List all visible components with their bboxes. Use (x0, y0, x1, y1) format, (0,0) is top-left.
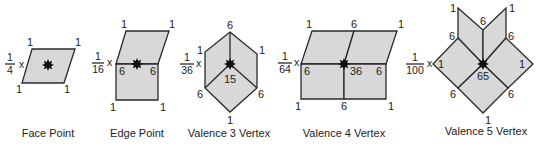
caption: Edge Point (110, 127, 164, 139)
mask-hexagon (205, 32, 257, 112)
times-sign: x (107, 56, 113, 68)
fraction-denominator: 64 (279, 63, 291, 75)
weight-label: 6 (258, 88, 264, 100)
times-sign: x (294, 56, 300, 68)
fraction-denominator: 100 (406, 64, 424, 76)
weight-label: 1 (227, 114, 233, 126)
panel-face-point: 1 4 x 1 1 1 1 Face Point (5, 36, 81, 139)
scale-fraction: 1 16 x (92, 50, 113, 75)
weight-label: 6 (508, 30, 514, 42)
weight-label: 6 (227, 19, 233, 31)
fraction-numerator: 1 (184, 51, 190, 63)
weight-label: 1 (169, 18, 175, 30)
weight-label: 6 (150, 65, 156, 77)
weight-label: 1 (295, 100, 301, 112)
panel-valence-5-vertex: 1 100 x 1 6 1 6 6 1 1 65 6 6 1 Valence 5… (406, 2, 533, 137)
weight-label: 1 (121, 18, 127, 30)
weight-label: 1 (438, 58, 444, 70)
panel-valence-4-vertex: 1 64 x 1 6 1 6 36 6 1 6 1 Valence 4 Vert… (278, 18, 404, 139)
weight-label: 1 (197, 44, 203, 56)
weight-label: 1 (519, 58, 525, 70)
weight-label: 1 (160, 101, 166, 113)
fraction-numerator: 1 (282, 50, 288, 62)
caption: Valence 4 Vertex (303, 127, 386, 139)
mask-face (116, 31, 169, 64)
fraction-numerator: 1 (95, 50, 101, 62)
weight-label: 6 (119, 65, 125, 77)
weight-label: 1 (509, 2, 515, 14)
scale-fraction: 1 100 x (406, 51, 433, 76)
fraction-denominator: 16 (92, 63, 104, 75)
scale-fraction: 1 4 x (5, 51, 25, 76)
subdivision-masks-figure: 1 4 x 1 1 1 1 Face Point 1 16 x 1 1 6 6 … (0, 0, 539, 147)
weight-label: 6 (449, 30, 455, 42)
panel-edge-point: 1 16 x 1 1 6 6 1 1 Edge Point (92, 18, 175, 139)
weight-label: 1 (306, 18, 312, 30)
times-sign: x (427, 57, 433, 69)
weight-label: 6 (376, 65, 382, 77)
weight-label: 36 (350, 65, 362, 77)
weight-label: 1 (75, 36, 81, 48)
weight-label: 1 (388, 100, 394, 112)
weight-label: 1 (16, 83, 22, 95)
caption: Face Point (22, 127, 75, 139)
mask-face (344, 31, 397, 64)
weight-label: 6 (480, 15, 486, 27)
weight-label: 1 (27, 36, 33, 48)
weight-label: 1 (110, 101, 116, 113)
weight-label: 1 (398, 18, 404, 30)
caption: Valence 3 Vertex (188, 127, 271, 139)
weight-label: 65 (477, 70, 489, 82)
fraction-numerator: 1 (7, 51, 13, 63)
fraction-denominator: 4 (7, 64, 13, 76)
weight-label: 15 (224, 73, 236, 85)
weight-label: 1 (450, 2, 456, 14)
weight-label: 6 (197, 88, 203, 100)
weight-label: 1 (259, 44, 265, 56)
weight-label: 6 (351, 18, 357, 30)
caption: Valence 5 Vertex (445, 125, 528, 137)
weight-label: 6 (508, 88, 514, 100)
weight-label: 6 (341, 100, 347, 112)
scale-fraction: 1 64 x (278, 50, 300, 75)
times-sign: x (19, 58, 25, 70)
fraction-numerator: 1 (412, 51, 418, 63)
panel-valence-3-vertex: 1 36 x 6 1 1 15 6 6 1 Valence 3 Vertex (180, 19, 271, 139)
fraction-denominator: 36 (181, 64, 193, 76)
weight-label: 6 (304, 65, 310, 77)
weight-label: 6 (450, 88, 456, 100)
weight-label: 1 (64, 83, 70, 95)
times-sign: x (196, 57, 202, 69)
